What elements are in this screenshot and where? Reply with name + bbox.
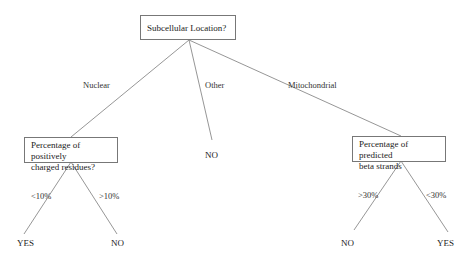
nuclear-question-line1: Percentage of positively <box>31 140 111 162</box>
mito-question-line2: beta strands <box>359 161 439 172</box>
branch-label-nuclear: Nuclear <box>83 80 110 90</box>
branch-label-gt10: >10% <box>99 191 119 201</box>
nuclear-node: Percentage of positively charged residue… <box>24 137 118 163</box>
mitochondrial-node: Percentage of predicted beta strands <box>352 136 446 162</box>
root-node: Subcellular Location? <box>140 15 236 40</box>
branch-label-gt30: >30% <box>358 190 378 200</box>
leaf-nuclear-yes: YES <box>17 238 34 248</box>
leaf-mito-yes: YES <box>437 238 454 248</box>
branch-label-other: Other <box>205 80 224 90</box>
edge-root-other <box>189 40 212 140</box>
nuclear-question-line2: charged residues? <box>31 162 111 173</box>
leaf-nuclear-no: NO <box>111 238 124 248</box>
branch-label-lt30: <30% <box>426 190 446 200</box>
leaf-other-result: NO <box>205 150 218 160</box>
leaf-mito-no: NO <box>341 238 354 248</box>
branch-label-lt10: <10% <box>31 191 51 201</box>
root-question: Subcellular Location? <box>147 23 226 33</box>
mito-question-line1: Percentage of predicted <box>359 139 439 161</box>
branch-label-mitochondrial: Mitochondrial <box>288 80 337 90</box>
